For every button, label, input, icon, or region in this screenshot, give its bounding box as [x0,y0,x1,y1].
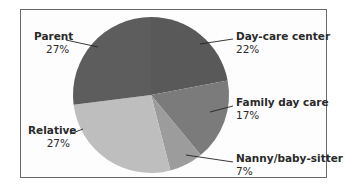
label-family: Family day care 17% [236,96,329,122]
label-relative-pct: 27% [28,137,70,150]
label-nanny: Nanny/baby-sitter 7% [236,152,343,178]
label-parent-pct: 27% [34,43,73,56]
label-daycare: Day-care center 22% [236,30,330,56]
label-daycare-name: Day-care center [236,30,330,43]
label-nanny-pct: 7% [236,165,343,178]
pie-slice-parent [73,17,151,105]
label-nanny-name: Nanny/baby-sitter [236,152,343,165]
label-family-pct: 17% [236,109,329,122]
label-parent: Parent 27% [34,30,73,56]
label-relative-name: Relative [28,124,70,137]
label-daycare-pct: 22% [236,43,330,56]
label-parent-name: Parent [34,30,73,43]
label-relative: Relative 27% [28,124,70,150]
label-family-name: Family day care [236,96,329,109]
